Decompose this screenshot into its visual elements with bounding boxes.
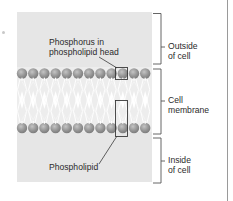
phospholipid-label: Phospholipid: [49, 162, 98, 172]
phospholipid-head: [118, 123, 128, 133]
phosphorus-leader-line: [99, 57, 117, 68]
phospholipid-head: [129, 68, 139, 78]
phospholipid-head: [73, 123, 83, 133]
region-label-outside: Outside of cell: [168, 41, 198, 61]
phospholipid-head: [17, 123, 27, 133]
phospholipid-head: [118, 68, 128, 78]
region-brackets: [153, 14, 165, 184]
phospholipid-head: [84, 123, 94, 133]
phosphorus-label-line2: phospholipid head: [49, 47, 119, 57]
phospholipid-head: [50, 123, 60, 133]
region-label-membrane-line1: Cell: [168, 95, 209, 105]
region-label-membrane: Cell membrane: [168, 95, 209, 115]
phospholipid-head: [17, 68, 27, 78]
phospholipid-head: [84, 68, 94, 78]
phospholipid-head: [39, 123, 49, 133]
page-edge-divider: [227, 0, 228, 201]
phospholipid-head: [129, 123, 139, 133]
phospholipid-head: [28, 123, 38, 133]
phospholipid-heads-inner: [17, 121, 151, 133]
phosphorus-label: Phosphorus in phospholipid head: [49, 37, 119, 57]
region-label-inside-line2: of cell: [168, 165, 191, 175]
phospholipid-heads-outer: [17, 68, 151, 80]
region-label-membrane-line2: membrane: [168, 105, 209, 115]
phospholipid-head: [95, 68, 105, 78]
region-label-outside-line1: Outside: [168, 41, 198, 51]
phospholipid-head: [28, 68, 38, 78]
phospholipid-head: [39, 68, 49, 78]
phospholipid-head: [140, 123, 150, 133]
region-label-outside-line2: of cell: [168, 51, 198, 61]
region-label-inside: Inside of cell: [168, 155, 191, 175]
phospholipid-head: [95, 123, 105, 133]
phospholipid-head: [50, 68, 60, 78]
lipid-tails: [18, 79, 150, 123]
bracket-membrane: [153, 69, 161, 134]
phospholipid-head: [140, 68, 150, 78]
bracket-inside: [153, 138, 161, 183]
phospholipid-head: [73, 68, 83, 78]
phospholipid-head: [62, 123, 72, 133]
phospholipid-leader-line: [99, 136, 117, 164]
region-label-inside-line1: Inside: [168, 155, 191, 165]
bracket-outside: [153, 14, 161, 65]
phospholipid-head: [62, 68, 72, 78]
phosphorus-label-line1: Phosphorus in: [49, 37, 119, 47]
